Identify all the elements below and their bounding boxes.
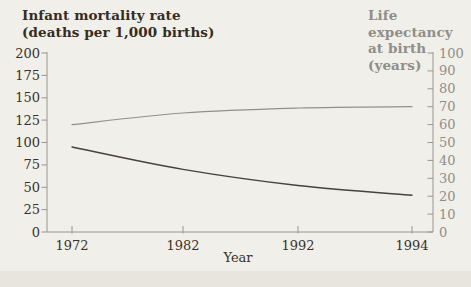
right-axis-tick-label: 90 [439,63,456,78]
right-axis-tick-label: 40 [439,153,456,168]
left-axis-tick-label: 150 [15,90,40,105]
plot-area: 0255075100125150175200010203040506070809… [0,0,471,287]
right-axis-tick-label: 70 [439,99,456,114]
right-axis-tick-label: 0 [439,225,447,240]
left-axis-tick-label: 175 [15,68,40,83]
x-axis-tick-label: 1994 [395,238,428,253]
right-axis-tick-label: 80 [439,81,456,96]
x-axis-title: Year [222,250,253,265]
x-axis-tick-label: 1992 [281,238,314,253]
page-edge-strip [0,271,471,287]
right-axis-tick-label: 60 [439,117,456,132]
right-axis-tick-label: 10 [439,207,456,222]
series-line-infant-mortality-rate [72,147,412,195]
right-axis-tick-label: 20 [439,189,456,204]
left-axis-tick-label: 0 [32,225,40,240]
right-axis-tick-label: 100 [439,46,464,61]
dual-axis-line-chart: Infant mortality rate (deaths per 1,000 … [0,0,471,287]
left-axis-tick-label: 50 [23,180,40,195]
right-axis-tick-label: 50 [439,135,456,150]
right-axis-tick-label: 30 [439,171,456,186]
series-line-life-expectancy-at-birth [72,107,412,125]
left-axis-tick-label: 100 [15,135,40,150]
left-axis-tick-label: 25 [23,202,40,217]
left-axis-tick-label: 125 [15,113,40,128]
x-axis-tick-label: 1982 [166,238,199,253]
left-axis-tick-label: 200 [15,46,40,61]
left-axis-tick-label: 75 [23,157,40,172]
x-axis-tick-label: 1972 [55,238,88,253]
